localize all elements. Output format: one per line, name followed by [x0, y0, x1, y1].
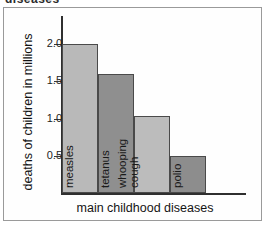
- bar-measles[interactable]: measles: [62, 44, 98, 193]
- bars-layer: measlestetanuswhoopingcoughpolio: [0, 0, 268, 228]
- x-axis-title: main childhood diseases: [40, 201, 250, 215]
- bar-label-line: cough: [128, 139, 140, 188]
- bar-label: whoopingcough: [116, 139, 140, 188]
- bar-chart: 2.01.51.00.5 measlestetanuswhoopingcough…: [0, 0, 268, 228]
- bar-label: measles: [63, 145, 75, 188]
- bar-label: tetanus: [99, 150, 111, 188]
- bar-label-line: measles: [63, 145, 75, 188]
- y-axis-title: deaths of children in millions: [21, 22, 35, 202]
- bar-label: polio: [171, 164, 183, 188]
- bar-label-line: tetanus: [99, 150, 111, 188]
- bar-label-line: polio: [171, 164, 183, 188]
- bar-polio[interactable]: polio: [170, 156, 206, 193]
- bar-whooping-cough[interactable]: whoopingcough: [134, 116, 170, 193]
- bar-label-line: whooping: [116, 139, 128, 188]
